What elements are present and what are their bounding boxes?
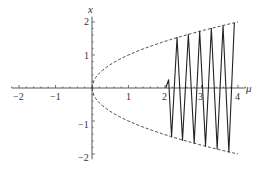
x-tick-label-neg1: −1 — [50, 92, 61, 102]
y-tick-label-2: 2 — [84, 17, 89, 27]
x-tick-label-neg2: −2 — [13, 92, 24, 102]
chart-canvas — [0, 0, 265, 170]
x-tick-label-2: 2 — [162, 92, 167, 102]
x-tick-label-1: 1 — [126, 92, 131, 102]
x-tick-label-3: 3 — [198, 92, 203, 102]
y-axis-label: x — [88, 4, 93, 15]
upper-envelope-curve — [92, 22, 238, 88]
x-tick-label-4: 4 — [235, 92, 240, 102]
x-axis-label: μ — [246, 83, 252, 94]
y-tick-label-neg1: −1 — [78, 120, 89, 130]
oscillating-solution-curve — [166, 23, 235, 152]
y-tick-label-neg2: −2 — [78, 153, 89, 163]
y-tick-label-1: 1 — [84, 51, 89, 61]
